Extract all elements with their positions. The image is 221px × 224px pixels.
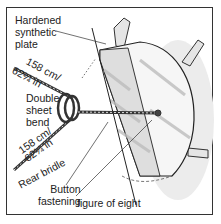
label-plate: Hardened synthetic plate	[15, 14, 61, 50]
label-knot-line-1: Double	[26, 92, 59, 104]
label-fastening-line-1: Button	[38, 183, 81, 195]
label-knot-line-2: sheet	[26, 104, 59, 116]
label-figure-of-eight: figure of eight	[77, 197, 141, 209]
label-plate-line-3: plate	[15, 38, 61, 50]
label-plate-line-2: synthetic	[15, 26, 61, 38]
label-plate-line-1: Hardened	[15, 14, 61, 26]
label-fastening: Button fastening	[38, 183, 81, 207]
label-knot: Double sheet bend	[26, 92, 59, 128]
label-fastening-line-2: fastening	[38, 195, 81, 207]
